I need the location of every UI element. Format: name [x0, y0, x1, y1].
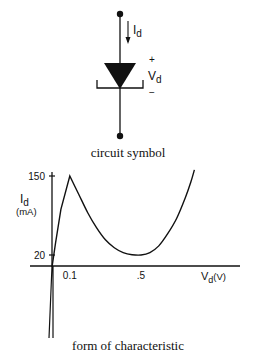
x-tick-label: .5 — [137, 270, 146, 281]
x-tick-label: 0.1 — [63, 270, 77, 281]
bottom-terminal — [117, 133, 123, 139]
voltage-label: Vd — [148, 69, 162, 85]
characteristic-chart: 15020 0.1.5 Id (mA) Vd(V) form of charac… — [16, 170, 240, 353]
minus-label: − — [149, 87, 155, 98]
top-terminal — [117, 11, 123, 17]
current-arrow-icon — [126, 21, 131, 44]
diagram-canvas: Id + Vd − circuit symbol 15020 0.1.5 Id … — [0, 0, 257, 360]
y-axis-unit: (mA) — [16, 206, 37, 217]
x-axis-label: Vd(V) — [201, 270, 226, 285]
current-label: Id — [133, 23, 142, 39]
diode-triangle — [104, 63, 136, 89]
chart-title: form of characteristic — [72, 338, 184, 353]
symbol-caption: circuit symbol — [91, 145, 166, 160]
y-tick-label: 20 — [34, 250, 46, 261]
circuit-symbol: Id + Vd − circuit symbol — [91, 11, 166, 160]
x-ticks: 0.1.5 — [63, 270, 146, 281]
plus-label: + — [149, 54, 155, 65]
negative-branch-curve — [49, 266, 53, 338]
characteristic-curve — [52, 170, 194, 267]
y-tick-label: 150 — [28, 171, 45, 182]
